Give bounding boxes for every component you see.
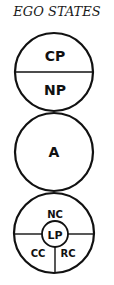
nurturing-parent-label: NP	[44, 82, 66, 98]
little-professor-label: LP	[47, 229, 62, 242]
natural-child-label: NC	[47, 209, 63, 220]
adult-ego-state: A	[15, 113, 93, 191]
adult-label: A	[49, 144, 60, 160]
compliant-child-label: CC	[31, 248, 46, 259]
parent-ego-state: CP NP	[15, 33, 93, 111]
rebellious-child-label: RC	[60, 248, 75, 259]
ego-states-diagram: CP NP A NC LP CC RC	[0, 0, 114, 285]
child-ego-state: NC LP CC RC	[14, 193, 94, 273]
critical-parent-label: CP	[45, 48, 66, 64]
